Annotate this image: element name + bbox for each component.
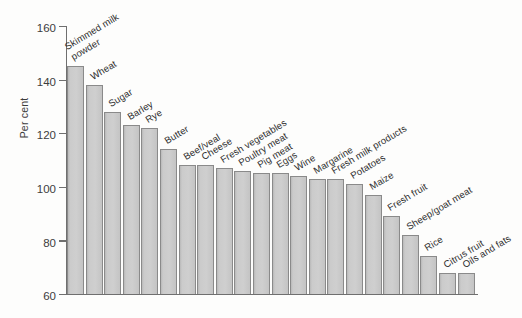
y-axis-tick-label: 80 bbox=[43, 237, 59, 249]
bar[interactable] bbox=[290, 176, 307, 294]
bar[interactable] bbox=[458, 273, 475, 294]
bar-group[interactable]: Pig meat bbox=[253, 26, 270, 294]
bar[interactable] bbox=[216, 168, 233, 294]
bar[interactable] bbox=[272, 173, 289, 294]
bar[interactable] bbox=[141, 128, 158, 294]
y-axis-tick: 100 bbox=[59, 187, 67, 188]
bar-group[interactable]: Margarine bbox=[309, 26, 326, 294]
plot-area: Skimmed milk powderWheatSugarBarleyRyeBu… bbox=[67, 26, 478, 294]
bar-group[interactable]: Skimmed milk powder bbox=[67, 26, 84, 294]
bar-group[interactable]: Sugar bbox=[104, 26, 121, 294]
bar[interactable] bbox=[253, 173, 270, 294]
bar-group[interactable]: Wheat bbox=[86, 26, 103, 294]
bar-group[interactable]: Barley bbox=[123, 26, 140, 294]
bar-group[interactable]: Butter bbox=[160, 26, 177, 294]
bar-group[interactable]: Beef/veal bbox=[179, 26, 196, 294]
bar-group[interactable]: Citrus fruit bbox=[439, 26, 456, 294]
bar-group[interactable]: Potatoes bbox=[346, 26, 363, 294]
bar-group[interactable]: Fresh vegetables bbox=[216, 26, 233, 294]
y-axis-tick-label: 100 bbox=[37, 183, 59, 195]
bar[interactable] bbox=[197, 165, 214, 294]
bar[interactable] bbox=[402, 235, 419, 294]
bar[interactable] bbox=[365, 195, 382, 294]
y-axis-tick: 140 bbox=[59, 80, 67, 81]
bar[interactable] bbox=[420, 256, 437, 294]
bar-group[interactable]: Oils and fats bbox=[458, 26, 475, 294]
bar[interactable] bbox=[309, 179, 326, 294]
bar-group[interactable]: Rice bbox=[420, 26, 437, 294]
y-axis-tick-label: 60 bbox=[43, 290, 59, 302]
bar[interactable] bbox=[383, 216, 400, 294]
bar-group[interactable]: Poultry meat bbox=[234, 26, 251, 294]
bar[interactable] bbox=[327, 179, 344, 294]
y-axis-tick: 160 bbox=[59, 26, 67, 27]
y-axis-tick-label: 160 bbox=[37, 22, 59, 34]
y-axis-tick: 60 bbox=[59, 294, 67, 295]
y-axis-tick-label: 120 bbox=[37, 129, 59, 141]
bar-group[interactable]: Wine bbox=[290, 26, 307, 294]
bar[interactable] bbox=[234, 171, 251, 294]
bar[interactable] bbox=[67, 66, 84, 294]
bar-category-label: Oils and fats bbox=[460, 232, 512, 270]
bar-chart: Per cent 1601401201008060 Skimmed milk p… bbox=[0, 0, 522, 318]
bar-group[interactable]: Eggs bbox=[272, 26, 289, 294]
bar[interactable] bbox=[86, 85, 103, 294]
y-axis-tick: 80 bbox=[59, 240, 67, 241]
bar[interactable] bbox=[346, 184, 363, 294]
bar-group[interactable]: Fresh fruit bbox=[383, 26, 400, 294]
bar-group[interactable]: Sheep/goat meat bbox=[402, 26, 419, 294]
bar[interactable] bbox=[104, 112, 121, 294]
bar-group[interactable]: Maize bbox=[365, 26, 382, 294]
y-axis-tick-label: 140 bbox=[37, 76, 59, 88]
bar[interactable] bbox=[179, 165, 196, 294]
bar-group[interactable]: Fresh milk products bbox=[327, 26, 344, 294]
y-axis-title: Per cent bbox=[18, 78, 30, 158]
bar-group[interactable]: Rye bbox=[141, 26, 158, 294]
bar-group[interactable]: Cheese bbox=[197, 26, 214, 294]
bar[interactable] bbox=[439, 273, 456, 294]
y-axis-tick: 120 bbox=[59, 133, 67, 134]
x-axis-line bbox=[66, 294, 478, 295]
bar[interactable] bbox=[123, 125, 140, 294]
bar[interactable] bbox=[160, 149, 177, 294]
